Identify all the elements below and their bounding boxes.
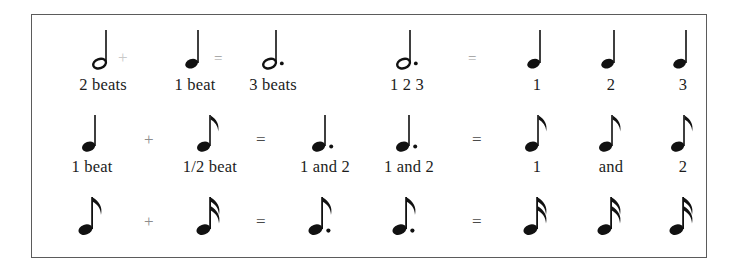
quarter-note-icon	[42, 111, 142, 157]
operator-plus: +	[144, 131, 154, 148]
chart-row-eighth-note: + =	[32, 187, 706, 265]
note-cell-eighth-note: 1/2 beat	[160, 111, 260, 176]
dotted-eighth-note-icon	[354, 193, 464, 239]
note-cell-eighth-note-3: 2	[640, 111, 726, 176]
dotted-half-note-icon	[362, 29, 452, 75]
sixteenth-note-icon	[160, 193, 260, 239]
note-cell-dotted-half-note: 3 beats	[228, 29, 318, 94]
operator-equals: =	[214, 51, 222, 66]
note-cell-sixteenth-note-3	[640, 193, 726, 241]
chart-row-half-note: 2 beats + 1 beat =	[32, 21, 706, 99]
operator-plus: +	[144, 213, 154, 230]
chart-row-quarter-note: 1 beat + 1/2 beat =	[32, 103, 706, 181]
operator-equals: =	[468, 51, 476, 66]
note-caption: 1 2 3	[362, 77, 452, 94]
note-caption: 1/2 beat	[160, 159, 260, 176]
note-caption: 1 and 2	[354, 159, 464, 176]
note-caption: 1 beat	[42, 159, 142, 176]
note-caption: 2 beats	[60, 77, 146, 94]
dotted-half-note-icon	[228, 29, 318, 75]
note-caption: 1 beat	[152, 77, 238, 94]
half-note-icon	[60, 29, 146, 75]
note-caption: 2	[640, 159, 726, 176]
note-cell-dotted-half-note-result: 1 2 3	[362, 29, 452, 94]
quarter-note-icon	[640, 29, 726, 75]
operator-equals: =	[472, 131, 482, 148]
eighth-note-icon	[640, 111, 726, 157]
operator-plus: +	[118, 49, 128, 66]
note-cell-sixteenth-note	[160, 193, 260, 241]
operator-equals: =	[472, 213, 482, 230]
note-cell-quarter-note-3: 3	[640, 29, 726, 94]
note-value-chart-frame: 2 beats + 1 beat =	[31, 14, 707, 258]
eighth-note-icon	[160, 111, 260, 157]
note-cell-dotted-quarter-note-result: 1 and 2	[354, 111, 464, 176]
note-cell-quarter-note: 1 beat	[152, 29, 238, 94]
note-caption: 3 beats	[228, 77, 318, 94]
note-cell-eighth-note	[42, 193, 142, 241]
eighth-note-icon	[42, 193, 142, 239]
note-caption: 3	[640, 77, 726, 94]
operator-equals: =	[256, 131, 266, 148]
note-cell-quarter-note: 1 beat	[42, 111, 142, 176]
quarter-note-icon	[152, 29, 238, 75]
note-cell-half-note: 2 beats	[60, 29, 146, 94]
sixteenth-note-icon	[640, 193, 726, 239]
note-cell-dotted-eighth-note-result	[354, 193, 464, 241]
operator-equals: =	[256, 213, 266, 230]
dotted-quarter-note-icon	[354, 111, 464, 157]
